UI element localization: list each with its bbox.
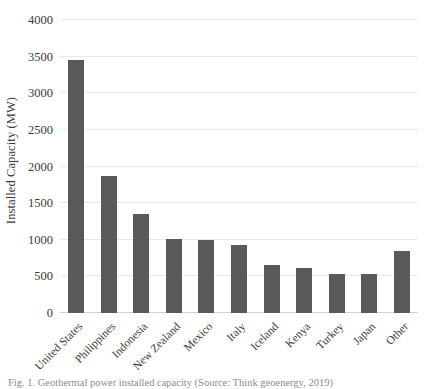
y-axis-tick-label: 4000 [28,13,53,28]
y-axis-tick-label: 500 [34,269,53,284]
y-axis-tick-label: 1500 [28,196,53,211]
y-axis-tick-label: 3000 [28,86,53,101]
bar [68,60,84,313]
y-axis-tick-label: 3500 [28,49,53,64]
y-axis-tick-label: 0 [47,306,53,321]
bar-slot [288,20,321,313]
bar [361,274,377,313]
y-axis-title: Installed Capacity (MW) [0,0,24,320]
x-axis-tick-slot: Mexico [190,313,223,383]
bar-slot [353,20,386,313]
x-axis-tick-slot: Other [385,313,418,383]
x-axis-tick-slot: Iceland [255,313,288,383]
bar [101,176,117,313]
bar [231,245,247,313]
bar [264,265,280,313]
bar [329,274,345,313]
y-axis-tick-label: 2500 [28,122,53,137]
bar [296,268,312,313]
bar [166,239,182,313]
y-axis-title-label: Installed Capacity (MW) [5,96,20,223]
bar-slot [158,20,191,313]
bar-slot [125,20,158,313]
x-axis-tick-slot: Italy [223,313,256,383]
bar-slot [223,20,256,313]
bar-slot [93,20,126,313]
x-axis-tick-slot: Turkey [320,313,353,383]
x-axis-tick-slot: Japan [353,313,386,383]
plot-area: 05001000150020002500300035004000 [60,20,418,313]
y-axis-tick-label: 1000 [28,232,53,247]
x-axis-tick-label: Other [383,320,410,347]
x-axis-tick-label: Italy [224,320,247,343]
bar [394,251,410,313]
figure-caption: Fig. 1. Geothermal power installed capac… [8,377,433,389]
y-axis-tick-label: 2000 [28,159,53,174]
x-axis-tick-label: Kenya [283,320,313,350]
bar-slot [60,20,93,313]
x-axis-tick-slot: Kenya [288,313,321,383]
x-axis-tick-label: Japan [351,320,378,347]
x-axis-tick-label: United States [33,320,85,372]
bar [133,214,149,313]
bar [198,240,214,313]
bar-slot [255,20,288,313]
bar-series [60,20,418,313]
bar-slot [320,20,353,313]
bar-slot [385,20,418,313]
x-axis-tick-labels: United StatesPhilippinesIndonesiaNew Zea… [60,313,418,383]
bar-slot [190,20,223,313]
